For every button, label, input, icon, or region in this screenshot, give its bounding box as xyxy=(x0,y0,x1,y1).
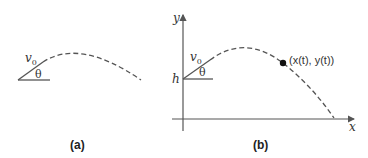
trajectory-arc xyxy=(43,53,141,80)
velocity-label: v0 xyxy=(190,50,202,66)
panel-a-caption: (a) xyxy=(70,138,85,152)
angle-label: θ xyxy=(35,68,42,81)
x-axis-label: x xyxy=(349,120,356,134)
panel-a: v0 θ (a) xyxy=(18,51,141,152)
height-label: h xyxy=(172,72,180,86)
panel-b-caption: (b) xyxy=(253,138,268,152)
panel-b: y x h (x(t), y(t)) v0 θ (b) xyxy=(172,11,356,152)
position-point xyxy=(280,60,286,66)
angle-label: θ xyxy=(199,66,206,79)
position-label: (x(t), y(t)) xyxy=(289,54,334,66)
velocity-label: v0 xyxy=(25,51,37,67)
projectile-diagram: v0 θ (a) y x h (x(t), y(t)) v0 θ (b) xyxy=(0,0,368,158)
y-axis-label: y xyxy=(172,11,180,25)
